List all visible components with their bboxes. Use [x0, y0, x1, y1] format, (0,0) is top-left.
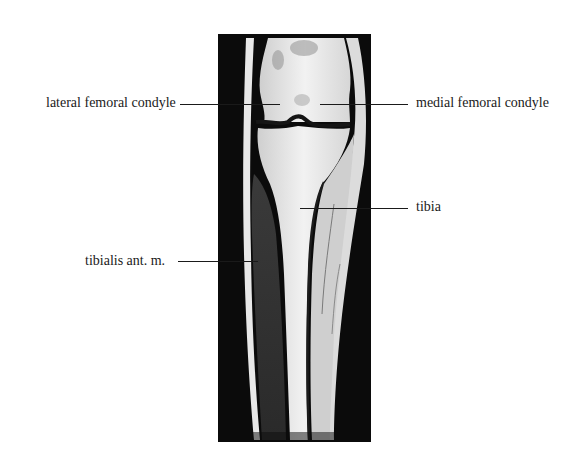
label-tibia: tibia	[416, 199, 441, 215]
leader-line-medial-femoral-condyle	[320, 104, 408, 105]
leader-line-tibialis-anterior	[178, 261, 258, 262]
label-medial-femoral-condyle: medial femoral condyle	[416, 95, 549, 111]
label-tibialis-anterior: tibialis ant. m.	[85, 253, 165, 269]
label-lateral-femoral-condyle: lateral femoral condyle	[46, 95, 176, 111]
anatomy-figure: lateral femoral condyle medial femoral c…	[0, 0, 588, 468]
leader-line-lateral-femoral-condyle	[180, 104, 280, 105]
mri-knee-leg-illustration	[218, 34, 371, 442]
mri-image	[218, 34, 371, 442]
leader-line-tibia	[300, 208, 408, 209]
